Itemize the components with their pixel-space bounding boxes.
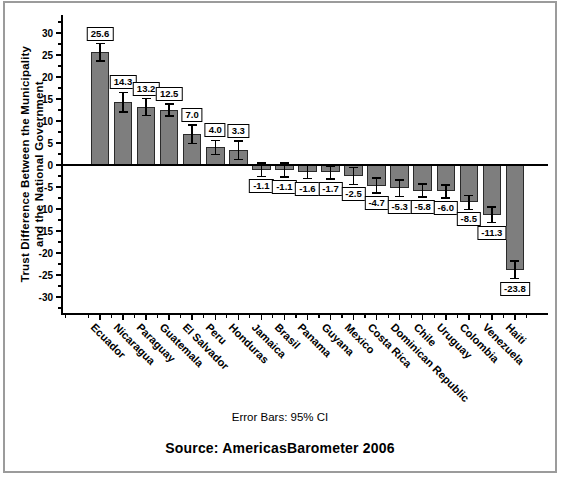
y-tick-label: -30 [22,292,53,303]
value-label-guatemala: 12.5 [156,87,183,101]
y-tick [56,252,61,254]
y-minor-tick [58,197,61,198]
error-bar-guatemala [168,104,170,116]
error-bar-bottom-cap-costa-rica [372,192,381,194]
value-label-uruguay: -6.0 [434,201,458,215]
x-minor-tick [457,315,458,318]
bar-haiti [506,165,525,270]
x-minor-tick [503,315,504,318]
error-bar-top-cap-ecuador [96,43,105,45]
x-tick [238,315,240,320]
x-minor-tick [388,315,389,318]
y-tick [56,230,61,232]
error-bar-bottom-cap-dominican-republic [395,196,404,198]
error-bar-bottom-cap-jamaica [257,176,266,178]
error-bars-note: Error Bars: 95% CI [3,410,557,424]
x-tick [168,315,170,320]
value-label-colombia: -8.5 [457,212,481,226]
value-label-jamaica: -1.1 [249,179,273,193]
y-tick [56,98,61,100]
value-label-mexico: -2.5 [341,187,365,201]
error-bar-top-cap-el-salvador [188,124,197,126]
x-minor-tick [318,315,319,318]
y-minor-tick [58,87,61,88]
x-tick [445,315,447,320]
x-tick [353,315,355,320]
x-minor-tick [434,315,435,318]
y-minor-tick [58,43,61,44]
x-tick [284,315,286,320]
x-minor-tick [249,315,250,318]
y-axis-title-line2: and the National Government [32,46,46,282]
bar-ecuador [91,52,110,165]
x-minor-tick [65,315,66,318]
error-bar-mexico [353,168,355,185]
error-bar-nicaragua [122,92,124,111]
error-bar-top-cap-haiti [510,260,519,262]
x-tick [261,315,263,320]
error-bar-honduras [238,141,240,159]
y-minor-tick [58,307,61,308]
error-bar-top-cap-panama [303,165,312,167]
x-minor-tick [480,315,481,318]
x-tick [491,315,493,320]
error-bar-top-cap-costa-rica [372,177,381,179]
error-bar-bottom-cap-ecuador [96,60,105,62]
y-tick [56,296,61,298]
error-bar-peru [215,140,217,154]
y-tick-label: 30 [22,28,53,39]
error-bar-top-cap-venezuela [487,206,496,208]
x-minor-tick [295,315,296,318]
error-bar-uruguay [445,185,447,198]
x-minor-tick [134,315,135,318]
error-bar-top-cap-dominican-republic [395,179,404,181]
error-bar-top-cap-colombia [464,195,473,197]
error-bar-top-cap-mexico [349,167,358,169]
y-minor-tick [58,131,61,132]
error-bar-bottom-cap-guyana [326,178,335,180]
error-bar-bottom-cap-el-salvador [188,143,197,145]
error-bar-dominican-republic [399,180,401,197]
error-bar-guyana [330,166,332,179]
y-minor-tick [58,21,61,22]
x-tick [122,315,124,320]
bar-guatemala [160,110,179,165]
x-minor-tick [364,315,365,318]
y-tick [56,208,61,210]
y-tick [56,142,61,144]
y-tick [56,76,61,78]
value-label-el-salvador: 7.0 [182,108,203,122]
value-label-costa-rica: -4.7 [364,196,388,210]
x-minor-tick [157,315,158,318]
y-minor-tick [58,153,61,154]
error-bar-bottom-cap-paraguay [142,115,151,117]
value-label-honduras: 3.3 [228,124,249,138]
value-label-chile: -5.8 [411,200,435,214]
x-minor-tick [272,315,273,318]
error-bar-top-cap-brasil [280,162,289,164]
error-bar-haiti [514,261,516,279]
error-bar-bottom-cap-guatemala [165,115,174,117]
error-bar-jamaica [261,163,263,176]
y-minor-tick [58,263,61,264]
error-bar-bottom-cap-colombia [464,209,473,211]
error-bar-top-cap-paraguay [142,98,151,100]
error-bar-top-cap-honduras [234,140,243,142]
y-minor-tick [58,109,61,110]
value-label-ecuador: 25.6 [87,27,114,41]
y-axis-title: Trust Difference Between the Municipalit… [18,46,46,282]
error-bar-brasil [284,163,286,177]
x-tick [330,315,332,320]
error-bar-bottom-cap-nicaragua [119,111,128,113]
y-minor-tick [58,175,61,176]
error-bar-bottom-cap-venezuela [487,222,496,224]
x-minor-tick [226,315,227,318]
error-bar-bottom-cap-haiti [510,278,519,280]
error-bar-paraguay [145,99,147,116]
error-bar-panama [307,165,309,178]
x-tick [399,315,401,320]
error-bar-el-salvador [191,125,193,143]
y-minor-tick [58,285,61,286]
x-tick [376,315,378,320]
error-bar-top-cap-chile [418,183,427,185]
